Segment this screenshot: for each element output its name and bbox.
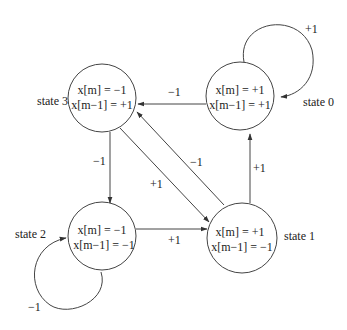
state-1-line1: x[m] = +1 [216,225,265,239]
state-0-line1: x[m] = +1 [216,83,265,97]
state-2-node: x[m] = −1 x[m−1] = −1 [68,202,136,270]
label-state0-to-state0: +1 [305,22,318,36]
state-3-line2: x[m−1] = +1 [71,98,133,112]
label-state2-to-state2: −1 [28,300,41,314]
state-0-line2: x[m−1] = +1 [209,98,271,112]
state-2-line1: x[m] = −1 [78,223,127,237]
label-state1-to-state0: +1 [253,161,266,175]
label-state3-to-state2: −1 [93,154,106,168]
state-1-line2: x[m−1] = −1 [211,240,273,254]
state-2-line2: x[m−1] = −1 [73,238,135,252]
state-0-label: state 0 [303,95,334,109]
label-state1-to-state3: −1 [190,155,203,169]
label-state3-to-state1: +1 [150,177,163,191]
state-3-label: state 3 [37,94,68,108]
state-3-node: x[m] = −1 x[m−1] = +1 [68,64,136,132]
state-1-label: state 1 [284,229,315,243]
label-state2-to-state1: +1 [168,233,181,247]
arrow-state1-to-state3 [137,112,224,205]
state-1-node: x[m] = +1 x[m−1] = −1 [207,203,277,273]
state-0-node: x[m] = +1 x[m−1] = +1 [206,62,274,130]
label-state0-to-state3: −1 [168,85,181,99]
state-diagram: x[m] = −1 x[m−1] = +1 state 3 x[m] = +1 … [0,0,347,330]
state-2-label: state 2 [15,227,46,241]
state-3-line1: x[m] = −1 [78,83,127,97]
